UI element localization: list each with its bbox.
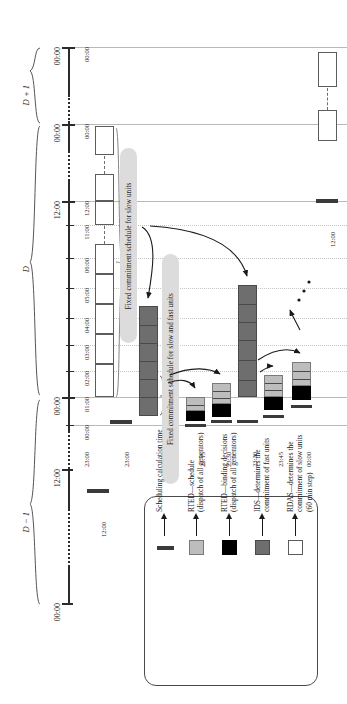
legend-label-calc-time: Scheduling calculation time [155, 429, 164, 512]
legend-arrow [196, 518, 197, 536]
legend-arrow [164, 518, 165, 536]
legend-label-rted-schedule: RTED—schedule (dispatch of all generator… [187, 433, 206, 512]
legend-swatch-rted-binding [222, 540, 237, 555]
legend-arrow [262, 518, 263, 536]
legend-swatch-ids [255, 540, 270, 555]
figure-canvas: 00:00 00:00 12:00 00:00 12:00 00:00 00:0… [0, 0, 347, 704]
legend-label-rdas: RDAS—determines the commitment of slow u… [286, 435, 314, 512]
legend-panel [144, 496, 318, 686]
legend-label-rted-binding: RTED—binding decisions (dispatch of all … [220, 433, 239, 512]
legend-swatch-rdas [288, 540, 303, 555]
legend-arrow [295, 518, 296, 536]
legend-label-ids: IDS—determines the commitment of fast un… [253, 438, 272, 512]
legend-swatch-rted-schedule [189, 540, 204, 555]
legend-swatch-calc-time [157, 546, 174, 550]
legend-arrow [229, 518, 230, 536]
